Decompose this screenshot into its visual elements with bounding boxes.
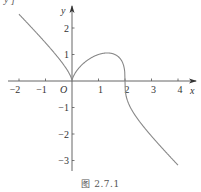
x-tick-label: 1 (98, 84, 103, 95)
y-tick-label: 2 (64, 23, 69, 34)
figure-caption: 图 2.7.1 (0, 177, 201, 190)
y-tick-label: −1 (58, 102, 69, 113)
y-tick-label: −3 (58, 155, 69, 166)
y-axis-label: y (60, 5, 66, 16)
x-tick-label: −2 (10, 84, 21, 95)
origin-label: O (60, 84, 67, 95)
x-axis-label: x (189, 85, 195, 96)
x-tick-label: −1 (36, 84, 47, 95)
y-tick-label: 1 (64, 49, 69, 60)
function-plot: −2−11234 −3−2−112 x y O (0, 0, 201, 192)
x-tick-label: 3 (151, 84, 156, 95)
x-tick-label: 4 (178, 84, 183, 95)
y-tick-label: −2 (58, 129, 69, 140)
